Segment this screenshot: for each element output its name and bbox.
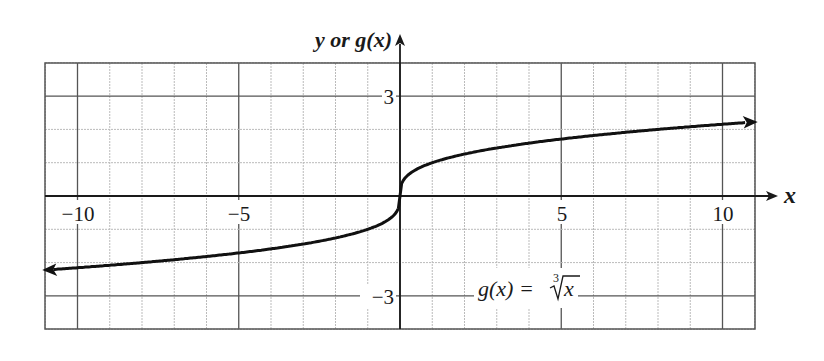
axes [45, 34, 778, 329]
tick-label-3: 3 [384, 85, 395, 109]
function-label-index: 3 [553, 271, 559, 285]
tick-label-10: 10 [713, 202, 734, 226]
function-label-lhs: g(x) = [478, 276, 534, 301]
function-label: g(x) = 3 x [478, 271, 580, 301]
tick-label-5: 5 [557, 202, 568, 226]
tick-label-m3: −3 [372, 285, 394, 309]
y-axis-label: y or g(x) [312, 27, 392, 52]
tick-label-m5: −5 [228, 202, 250, 226]
cube-root-chart: y or g(x) x −10 −5 5 10 3 −3 g(x) = 3 x [0, 0, 824, 361]
x-axis-label: x [783, 182, 796, 208]
function-label-arg: x [563, 276, 574, 301]
tick-label-m10: −10 [62, 202, 95, 226]
